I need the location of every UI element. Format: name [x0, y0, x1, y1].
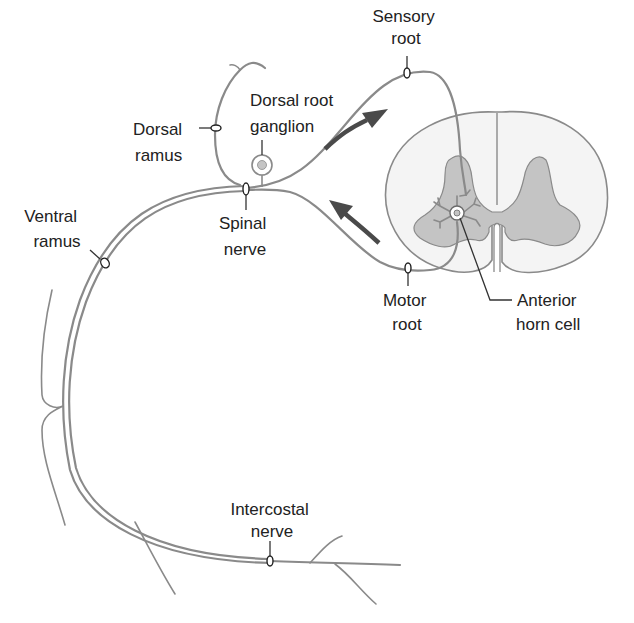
lateral-branch — [42, 290, 65, 525]
motor-root-line2: root — [392, 315, 422, 334]
sensory-root-marker — [404, 68, 410, 78]
dorsal-ramus-branch — [230, 65, 240, 70]
spinal-nerve-line2: nerve — [224, 240, 267, 259]
drg-line1: Dorsal root — [250, 91, 333, 110]
dorsal-ramus-line1: Dorsal — [133, 120, 182, 139]
label-anterior-horn-cell: Anterior horn cell — [516, 291, 581, 334]
intercostal-nerve-line1: Intercostal — [230, 500, 308, 519]
sensory-root-line1: Sensory — [372, 7, 435, 26]
label-motor-root: Motor root — [383, 291, 431, 334]
intercostal-nerve-line2: nerve — [251, 522, 294, 541]
neuron-nucleus — [454, 210, 460, 216]
drg-line2: ganglion — [250, 117, 314, 136]
intercostal-nerve-marker — [267, 556, 273, 566]
motor-root-line1: Motor — [383, 291, 427, 310]
label-intercostal-nerve: Intercostal nerve — [230, 500, 313, 541]
anterior-median-fissure — [494, 224, 500, 273]
afferent-arrow — [325, 109, 388, 149]
spinal-nerve-line1: Spinal — [219, 214, 266, 233]
spinal-nerve-diagram: Sensory root Dorsal root ganglion Dorsal… — [0, 0, 634, 623]
label-dorsal-root-ganglion: Dorsal root ganglion — [250, 91, 338, 136]
label-ventral-ramus: Ventral ramus — [24, 207, 82, 251]
dorsal-ramus-line2: ramus — [135, 146, 182, 165]
label-sensory-root: Sensory root — [372, 7, 439, 48]
intercostal-branch-2 — [335, 564, 376, 604]
label-spinal-nerve: Spinal nerve — [219, 214, 271, 259]
dorsal-ramus-marker — [211, 125, 221, 131]
anterior-horn-cell-line1: Anterior — [517, 291, 577, 310]
efferent-arrow — [329, 200, 379, 243]
label-dorsal-ramus: Dorsal ramus — [133, 120, 187, 165]
ventral-ramus-line2: ramus — [33, 232, 80, 251]
afferent-arrowhead — [362, 109, 388, 128]
spinal-cord — [386, 112, 608, 273]
intercostal-branch-1 — [310, 536, 342, 563]
dorsal-root-ganglion — [252, 155, 272, 187]
lateral-cutaneous-branch — [135, 522, 175, 594]
sensory-root-line2: root — [391, 29, 421, 48]
spinal-nerve-marker — [243, 183, 249, 195]
anterior-horn-cell-line2: horn cell — [516, 315, 580, 334]
motor-root-marker — [405, 263, 411, 273]
ventral-ramus-line1: Ventral — [24, 207, 77, 226]
